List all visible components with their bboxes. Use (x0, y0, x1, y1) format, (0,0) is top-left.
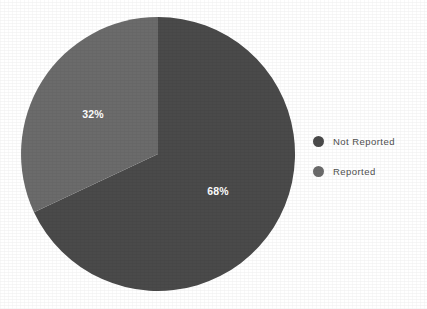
pie-slice-value-not-reported: 68% (207, 185, 229, 197)
pie-slice-value-reported: 32% (82, 108, 104, 120)
chart-legend: Not Reported Reported (313, 126, 423, 186)
filled-circle-swatch-icon (313, 136, 324, 147)
pie-svg: 68% 32% (0, 0, 310, 309)
pie-chart: 68% 32% Not Reported Reported (0, 0, 427, 309)
legend-item-not-reported[interactable]: Not Reported (313, 126, 423, 156)
filled-circle-swatch-icon (313, 166, 324, 177)
legend-item-label: Not Reported (333, 136, 395, 147)
pie-plot-area: 68% 32% (0, 0, 310, 309)
legend-item-label: Reported (333, 166, 376, 177)
legend-item-reported[interactable]: Reported (313, 156, 423, 186)
